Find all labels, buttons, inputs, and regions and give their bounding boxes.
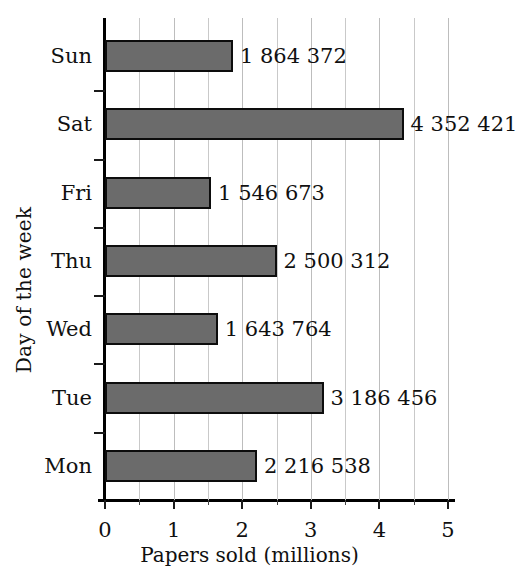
- gridline-major: [448, 18, 449, 500]
- bar-tue: 3 186 456: [105, 382, 324, 414]
- bar-sat: 4 352 421: [105, 108, 404, 140]
- x-tick-label: 0: [85, 518, 125, 542]
- y-tick-label-fri: Fri: [0, 181, 92, 205]
- y-tick: [94, 159, 105, 161]
- bar-value-label: 2 500 312: [284, 249, 391, 273]
- y-tick-label-sat: Sat: [0, 112, 92, 136]
- x-tick-minor: [277, 500, 278, 505]
- y-tick: [94, 363, 105, 365]
- bar-value-label: 1 546 673: [218, 181, 325, 205]
- x-tick: [173, 500, 175, 509]
- y-tick-label-tue: Tue: [0, 386, 92, 410]
- y-tick-label-mon: Mon: [0, 454, 92, 478]
- y-tick-label-sun: Sun: [0, 44, 92, 68]
- bar-value-label: 4 352 421: [411, 112, 517, 136]
- bar-value-label: 1 864 372: [240, 44, 347, 68]
- x-tick: [104, 500, 106, 509]
- bar-value-label: 2 216 538: [264, 454, 371, 478]
- x-axis-title: Papers sold (millions): [0, 543, 499, 567]
- x-tick: [310, 500, 312, 509]
- bar-fri: 1 546 673: [105, 177, 211, 209]
- y-tick: [94, 432, 105, 434]
- bar-thu: 2 500 312: [105, 245, 277, 277]
- x-tick-label: 3: [291, 518, 331, 542]
- x-tick-minor: [345, 500, 346, 505]
- gridline-minor: [277, 18, 278, 500]
- x-tick: [241, 500, 243, 509]
- y-tick: [94, 295, 105, 297]
- x-tick-label: 2: [222, 518, 262, 542]
- y-tick-label-thu: Thu: [0, 249, 92, 273]
- y-axis-title: Day of the week: [12, 180, 36, 400]
- x-tick-label: 5: [428, 518, 468, 542]
- bar-mon: 2 216 538: [105, 450, 257, 482]
- x-tick-minor: [139, 500, 140, 505]
- bar-value-label: 1 643 764: [225, 317, 332, 341]
- y-tick: [94, 90, 105, 92]
- bar-sun: 1 864 372: [105, 40, 233, 72]
- bar-value-label: 3 186 456: [331, 386, 438, 410]
- bar-wed: 1 643 764: [105, 313, 218, 345]
- x-tick: [447, 500, 449, 509]
- plot-area: 012345 1 864 372Sun4 352 421Sat1 546 673…: [105, 22, 448, 500]
- gridline-minor: [414, 18, 415, 500]
- x-tick-label: 1: [154, 518, 194, 542]
- x-tick: [378, 500, 380, 509]
- x-tick-minor: [208, 500, 209, 505]
- y-tick: [94, 227, 105, 229]
- y-tick-label-wed: Wed: [0, 317, 92, 341]
- x-tick-minor: [414, 500, 415, 505]
- x-tick-label: 4: [359, 518, 399, 542]
